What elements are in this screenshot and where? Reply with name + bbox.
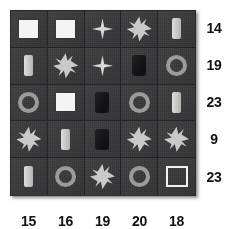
grid-cell-r1-c3[interactable] xyxy=(85,11,122,48)
grid-cell-r2-c1[interactable] xyxy=(11,48,48,85)
row-sum-2: 19 xyxy=(198,57,230,73)
square-filled-icon xyxy=(56,20,75,38)
grid-cell-r4-c3[interactable] xyxy=(85,121,122,158)
bar-vertical-light-icon xyxy=(172,92,181,113)
star-4-point-icon xyxy=(92,55,113,76)
shape-grid xyxy=(10,10,196,196)
grid-cell-r3-c4[interactable] xyxy=(121,85,158,122)
grid-cell-r4-c2[interactable] xyxy=(48,121,85,158)
ring-icon xyxy=(129,166,150,187)
grid-cell-r2-c2[interactable] xyxy=(48,48,85,85)
puzzle-stage: 14 19 23 9 23 15 16 19 20 18 xyxy=(0,0,232,229)
column-sum-4: 20 xyxy=(121,213,158,229)
grid-cell-r2-c4[interactable] xyxy=(121,48,158,85)
row-sum-3: 23 xyxy=(198,94,230,110)
grid-cell-r4-c4[interactable] xyxy=(121,121,158,158)
square-filled-icon xyxy=(56,93,75,111)
grid-cell-r1-c5[interactable] xyxy=(158,11,195,48)
grid-cell-r1-c1[interactable] xyxy=(11,11,48,48)
star-8-point-icon xyxy=(16,127,41,152)
square-hollow-icon xyxy=(166,166,188,187)
column-sum-5: 18 xyxy=(158,213,195,229)
column-sum-3: 19 xyxy=(84,213,121,229)
grid-cell-r2-c5[interactable] xyxy=(158,48,195,85)
star-8-point-icon xyxy=(53,53,78,78)
star-8-point-icon xyxy=(127,127,152,152)
grid-cell-r4-c1[interactable] xyxy=(11,121,48,158)
star-8-point-icon xyxy=(127,16,152,41)
star-8-point-icon xyxy=(164,127,189,152)
row-sum-4: 9 xyxy=(198,131,230,147)
grid-cell-r2-c3[interactable] xyxy=(85,48,122,85)
rectangle-dark-icon xyxy=(132,55,146,76)
bar-vertical-light-icon xyxy=(24,166,33,187)
grid-cell-r3-c2[interactable] xyxy=(48,85,85,122)
grid-cell-r5-c2[interactable] xyxy=(48,158,85,195)
square-filled-icon xyxy=(19,20,38,38)
grid-cell-r5-c1[interactable] xyxy=(11,158,48,195)
row-sum-1: 14 xyxy=(198,20,230,36)
grid-cell-r3-c3[interactable] xyxy=(85,85,122,122)
grid-cell-r3-c1[interactable] xyxy=(11,85,48,122)
grid-cell-r1-c2[interactable] xyxy=(48,11,85,48)
star-8-point-icon xyxy=(90,164,115,189)
grid-cell-r5-c5[interactable] xyxy=(158,158,195,195)
grid-cell-r1-c4[interactable] xyxy=(121,11,158,48)
ring-icon xyxy=(166,55,187,76)
bar-vertical-light-icon xyxy=(172,18,181,39)
row-sum-5: 23 xyxy=(198,169,230,185)
bar-vertical-light-icon xyxy=(61,129,70,150)
grid-cell-r5-c4[interactable] xyxy=(121,158,158,195)
column-sum-1: 15 xyxy=(10,213,47,229)
grid-cell-r3-c5[interactable] xyxy=(158,85,195,122)
bar-vertical-light-icon xyxy=(24,55,33,76)
rectangle-dark-icon xyxy=(95,129,109,150)
ring-icon xyxy=(18,92,39,113)
star-4-point-icon xyxy=(92,18,113,39)
grid-cell-r4-c5[interactable] xyxy=(158,121,195,158)
ring-icon xyxy=(55,166,76,187)
grid-cell-r5-c3[interactable] xyxy=(85,158,122,195)
ring-icon xyxy=(129,92,150,113)
column-sum-2: 16 xyxy=(47,213,84,229)
rectangle-dark-icon xyxy=(95,92,109,113)
